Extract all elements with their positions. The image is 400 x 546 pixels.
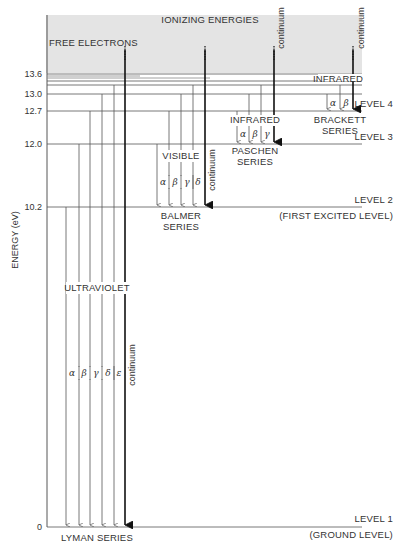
balmer-region-label: VISIBLE — [162, 150, 199, 161]
lyman-continuum-label: continuum — [127, 344, 137, 386]
svg-text:γ: γ — [93, 368, 99, 378]
brackett-series-label-1: BRACKETT — [314, 114, 366, 125]
y-axis-label: ENERGY (eV) — [10, 211, 20, 268]
energy-level-diagram: IONIZING ENERGIES FREE ELECTRONS 13.6 13… — [0, 0, 400, 546]
balmer-series-label-1: BALMER — [161, 210, 201, 221]
lyman-region-label: ULTRAVIOLET — [64, 282, 130, 293]
brackett-continuum-label: continuum — [356, 7, 366, 49]
svg-text:β: β — [80, 368, 86, 378]
paschen-continuum-label: continuum — [276, 7, 286, 49]
svg-text:12.7: 12.7 — [24, 106, 42, 116]
svg-text:γ: γ — [264, 129, 270, 139]
paschen-region-label: INFRARED — [230, 114, 280, 125]
ionizing-energies-label: IONIZING ENERGIES — [161, 14, 258, 25]
svg-text:β: β — [342, 98, 348, 108]
svg-text:12.0: 12.0 — [24, 139, 42, 149]
level-1-label: LEVEL 1 — [354, 513, 393, 524]
paschen-series-label-2: SERIES — [237, 156, 273, 167]
level-4-label: LEVEL 4 — [354, 98, 393, 109]
svg-text:13.6: 13.6 — [24, 69, 42, 79]
paschen-greek-labels: α β γ — [240, 129, 270, 139]
level-2-label: LEVEL 2 — [354, 194, 393, 205]
brackett-series-label-2: SERIES — [322, 125, 358, 136]
level-1-sublabel: (GROUND LEVEL) — [309, 529, 393, 540]
brackett-greek-labels: α β — [330, 98, 349, 108]
svg-text:γ: γ — [184, 177, 190, 187]
balmer-greek-labels: α β γ δ — [158, 176, 201, 188]
lyman-series-label: LYMAN SERIES — [61, 532, 133, 543]
svg-text:δ: δ — [195, 177, 200, 187]
balmer-series-label-2: SERIES — [163, 221, 199, 232]
svg-text:β: β — [251, 129, 257, 139]
svg-text:10.2: 10.2 — [24, 202, 42, 212]
svg-text:α: α — [240, 129, 246, 139]
svg-text:0: 0 — [37, 522, 42, 532]
svg-text:α: α — [160, 177, 166, 187]
svg-text:13.0: 13.0 — [24, 89, 42, 99]
lyman-greek-labels: α β γ δ ε — [67, 367, 122, 379]
svg-text:α: α — [330, 98, 336, 108]
svg-text:ε: ε — [117, 368, 122, 378]
paschen-series-label-1: PASCHEN — [232, 145, 279, 156]
balmer-continuum-label: continuum — [207, 149, 217, 191]
y-axis-ticks: 13.6 13.0 12.7 12.0 10.2 0 — [24, 69, 42, 532]
svg-text:β: β — [171, 177, 177, 187]
level-3-label: LEVEL 3 — [354, 131, 393, 142]
brackett-region-label: INFRARED — [313, 73, 363, 84]
svg-text:δ: δ — [105, 368, 110, 378]
level-2-sublabel: (FIRST EXCITED LEVEL) — [279, 210, 393, 221]
svg-text:α: α — [69, 368, 75, 378]
